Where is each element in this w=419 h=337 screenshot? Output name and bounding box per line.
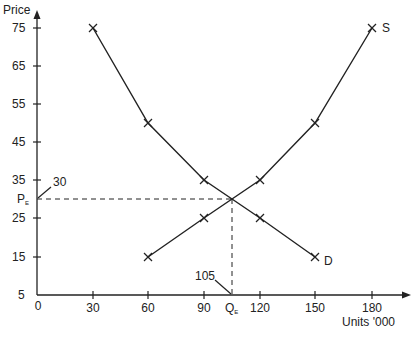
- x-tick-label: 90: [197, 301, 211, 315]
- demand-marker-icon: [311, 253, 319, 261]
- demand-marker-icon: [200, 176, 208, 184]
- supply-curve: [148, 28, 372, 257]
- demand-curve: [93, 28, 315, 257]
- supply-marker-icon: [368, 24, 376, 32]
- x-axis-title: Units '000: [342, 315, 395, 329]
- qe-annotation-value: 105: [195, 269, 215, 283]
- x-tick-label: 30: [86, 301, 100, 315]
- y-tick-labels: 75 65 55 45 35 25 15 5: [12, 21, 26, 302]
- y-tick-label: 25: [12, 211, 26, 225]
- supply-marker-icon: [144, 253, 152, 261]
- pe-label: PE: [17, 192, 29, 206]
- x-tick-label: 60: [141, 301, 155, 315]
- demand-label: D: [324, 254, 333, 268]
- qe-annotation-leader: [215, 280, 231, 294]
- y-tick-label: 35: [12, 173, 26, 187]
- y-tick-label: 75: [12, 21, 26, 35]
- demand-marker-icon: [89, 24, 97, 32]
- demand-marker-icon: [144, 119, 152, 127]
- pe-annotation-leader: [38, 187, 51, 198]
- y-tick-label: 5: [18, 288, 25, 302]
- x-tick-label: 150: [305, 301, 325, 315]
- axes: [37, 16, 404, 295]
- y-axis-arrow-icon: [34, 10, 41, 19]
- supply-demand-chart: Price Units '000 75 65 55 45 35 25 15 5 …: [0, 0, 419, 337]
- pe-annotation-value: 30: [53, 175, 67, 189]
- y-tick-label: 15: [12, 250, 26, 264]
- x-axis-arrow-icon: [402, 292, 411, 299]
- data-point-markers: [89, 24, 376, 261]
- y-axis-title: Price: [3, 3, 31, 17]
- x-tick-labels: 0 30 60 90 120 150 180: [35, 299, 383, 315]
- supply-marker-icon: [256, 176, 264, 184]
- supply-marker-icon: [311, 119, 319, 127]
- y-tick-label: 65: [12, 59, 26, 73]
- y-tick-label: 45: [12, 135, 26, 149]
- x-tick-label-origin: 0: [35, 299, 42, 313]
- supply-marker-icon: [200, 214, 208, 222]
- x-tick-label: 120: [250, 301, 270, 315]
- qe-label: QE: [225, 301, 238, 315]
- x-tick-label: 180: [362, 301, 382, 315]
- demand-marker-icon: [256, 214, 264, 222]
- supply-label: S: [382, 21, 390, 35]
- y-tick-label: 55: [12, 97, 26, 111]
